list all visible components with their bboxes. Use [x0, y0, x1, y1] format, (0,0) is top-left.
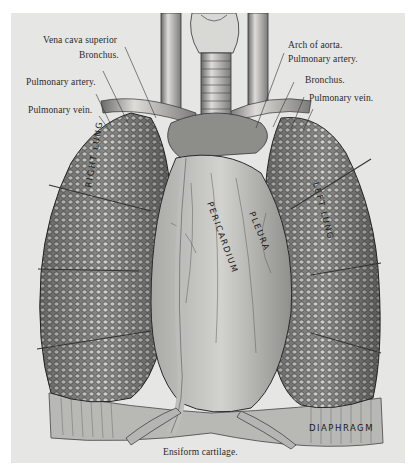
label-bronchus-right: Bronchus.	[79, 50, 119, 60]
anatomy-plate: DIAPHRAGM RIGHT LUNG LEFT LUNG	[11, 13, 405, 463]
diaphragm-inscription: DIAPHRAGM	[309, 423, 374, 433]
pericardium: PERICARDIUM PLEURA	[151, 155, 292, 412]
label-vena-cava-superior: Vena cava superior	[43, 35, 117, 45]
label-pulmonary-artery-right: Pulmonary artery.	[26, 77, 96, 87]
label-pulmonary-vein-left: Pulmonary vein.	[309, 93, 373, 103]
aortic-arch	[168, 113, 268, 158]
label-arch-of-aorta: Arch of aorta.	[288, 40, 342, 50]
right-lung: RIGHT LUNG	[40, 113, 171, 402]
label-ensiform-cartilage: Ensiform cartilage.	[163, 447, 238, 457]
label-pulmonary-artery-left: Pulmonary artery.	[288, 54, 358, 64]
label-pulmonary-vein-right: Pulmonary vein.	[28, 105, 92, 115]
label-bronchus-left: Bronchus.	[305, 75, 345, 85]
